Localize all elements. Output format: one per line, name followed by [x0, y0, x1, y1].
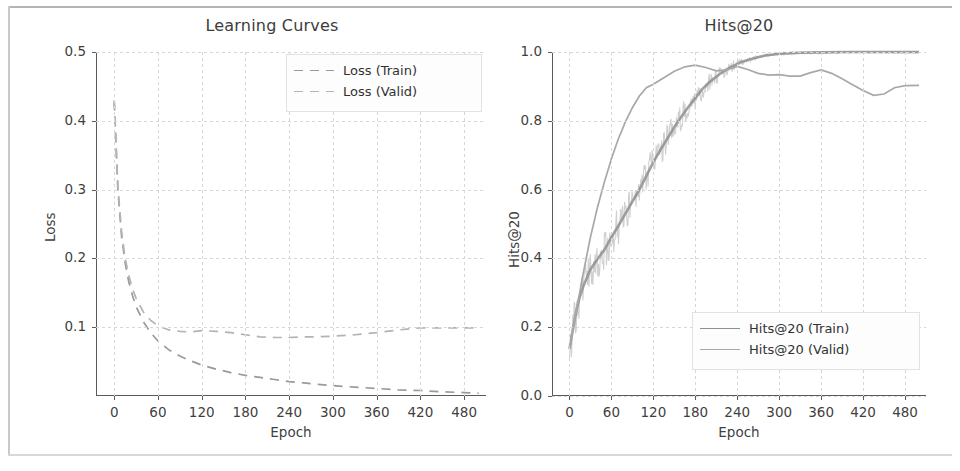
gridline-vertical [653, 52, 654, 396]
x-tick [289, 396, 290, 400]
legend-entry: Hits@20 (Train) [700, 318, 911, 339]
gridline-horizontal [96, 258, 486, 259]
left-y-spine [96, 52, 97, 396]
y-tick-label: 1.0 [478, 43, 542, 59]
right-plot-title: Hits@20 [552, 16, 926, 35]
y-tick [92, 190, 96, 191]
left-xaxis-label: Epoch [96, 424, 486, 440]
panel-learning-curves: Learning Curves Epoch Loss Loss (Train)L… [0, 0, 480, 471]
gridline-horizontal [552, 52, 926, 53]
y-tick [548, 190, 552, 191]
x-tick [158, 396, 159, 400]
y-tick-label: 0.2 [22, 249, 86, 265]
y-tick [548, 52, 552, 53]
right-xaxis-label: Epoch [552, 424, 926, 440]
dashed-swatch [294, 70, 334, 72]
x-tick [202, 396, 203, 400]
legend-label: Hits@20 (Train) [749, 321, 849, 336]
left-plot-title: Learning Curves [96, 16, 448, 35]
panel-hits20: Hits@20 Epoch Hits@20 Hits@20 (Train)Hit… [480, 0, 960, 471]
y-tick [548, 327, 552, 328]
y-tick-label: 0.4 [478, 249, 542, 265]
y-tick [92, 52, 96, 53]
legend-label: Loss (Valid) [343, 84, 417, 99]
y-tick-label: 0.6 [478, 181, 542, 197]
right-y-spine [552, 52, 553, 396]
legend-entry: Hits@20 (Valid) [700, 339, 911, 360]
dashed-swatch [294, 91, 334, 93]
dashed-line-key [294, 86, 334, 98]
x-tick-label: 480 [875, 404, 935, 420]
series-line [114, 102, 478, 394]
gridline-vertical [158, 52, 159, 396]
left-x-spine [96, 395, 486, 396]
gridline-vertical [114, 52, 115, 396]
gridline-vertical [245, 52, 246, 396]
left-yaxis-label: Loss [42, 212, 58, 242]
gridline-horizontal [96, 327, 486, 328]
y-tick [548, 258, 552, 259]
y-tick-label: 0.0 [478, 387, 542, 403]
legend-entry: Loss (Valid) [294, 81, 473, 102]
gridline-vertical [611, 52, 612, 396]
x-tick [333, 396, 334, 400]
y-tick [92, 327, 96, 328]
y-tick-label: 0.5 [22, 43, 86, 59]
gridline-horizontal [96, 190, 486, 191]
dashed-line-key [294, 65, 334, 77]
x-tick [245, 396, 246, 400]
gridline-horizontal [552, 121, 926, 122]
y-tick-label: 0.8 [478, 112, 542, 128]
series-line [114, 100, 478, 337]
y-tick [548, 121, 552, 122]
right-legend: Hits@20 (Train)Hits@20 (Valid) [692, 312, 920, 370]
legend-label: Loss (Train) [343, 63, 417, 78]
gridline-horizontal [552, 190, 926, 191]
solid-line-key [700, 344, 740, 356]
x-tick [420, 396, 421, 400]
y-tick [548, 396, 552, 397]
x-tick [464, 396, 465, 400]
gridline-vertical [569, 52, 570, 396]
left-legend: Loss (Train)Loss (Valid) [286, 54, 482, 112]
series-line [569, 65, 919, 348]
legend-label: Hits@20 (Valid) [749, 342, 849, 357]
solid-line-key [700, 323, 740, 335]
y-tick-label: 0.1 [22, 318, 86, 334]
x-tick [114, 396, 115, 400]
solid-swatch [700, 349, 740, 350]
series-line [569, 52, 919, 349]
y-tick [92, 121, 96, 122]
figure-canvas: Learning Curves Epoch Loss Loss (Train)L… [0, 0, 960, 471]
y-tick-label: 0.3 [22, 181, 86, 197]
legend-entry: Loss (Train) [294, 60, 473, 81]
gridline-horizontal [96, 121, 486, 122]
y-tick-label: 0.4 [22, 112, 86, 128]
solid-swatch [700, 328, 740, 329]
gridline-vertical [202, 52, 203, 396]
gridline-horizontal [552, 396, 926, 397]
gridline-horizontal [552, 258, 926, 259]
x-tick [377, 396, 378, 400]
y-tick [92, 258, 96, 259]
y-tick-label: 0.2 [478, 318, 542, 334]
gridline-horizontal [96, 52, 486, 53]
